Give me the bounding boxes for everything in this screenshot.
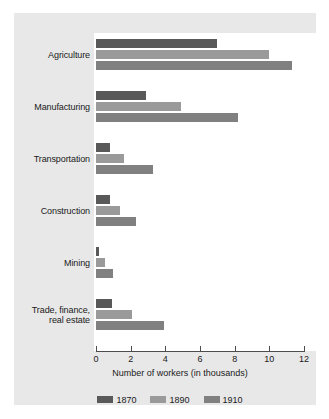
bar-1910 — [96, 165, 153, 174]
legend-label: 1870 — [116, 395, 136, 405]
category-label-line: Trade, finance, — [14, 305, 90, 315]
category-label: Transportation — [14, 154, 90, 164]
bar-1890 — [96, 206, 120, 215]
x-tick — [96, 346, 97, 352]
x-tick — [165, 346, 166, 352]
category-label: Manufacturing — [14, 102, 90, 112]
category-label: Mining — [14, 258, 90, 268]
x-tick — [269, 346, 270, 352]
legend-item-1870: 1870 — [97, 390, 136, 408]
category-label-line: Manufacturing — [14, 102, 90, 112]
legend-swatch — [97, 396, 113, 403]
x-tick-label: 8 — [225, 354, 245, 364]
legend-label: 1890 — [169, 395, 189, 405]
x-tick-label: 2 — [121, 354, 141, 364]
category-label-line: Transportation — [14, 154, 90, 164]
x-tick-label: 12 — [294, 354, 314, 364]
bar-1890 — [96, 102, 181, 111]
legend-item-1890: 1890 — [150, 390, 189, 408]
category-label: Trade, finance,real estate — [14, 305, 90, 325]
x-tick — [131, 346, 132, 352]
legend-item-1910: 1910 — [204, 390, 243, 408]
bar-1910 — [96, 61, 292, 70]
legend-items: 187018901910 — [97, 389, 256, 408]
bar-1890 — [96, 50, 269, 59]
legend-swatch — [204, 396, 220, 403]
bar-1890 — [96, 258, 105, 267]
category-label-line: Construction — [14, 206, 90, 216]
legend-label: 1910 — [223, 395, 243, 405]
category-label-line: real estate — [14, 315, 90, 325]
bar-1870 — [96, 91, 146, 100]
bar-1910 — [96, 269, 113, 278]
category-label: Agriculture — [14, 50, 90, 60]
x-axis-label-text: Number of workers (in thousands) — [112, 368, 248, 378]
x-tick-label: 6 — [190, 354, 210, 364]
chart-figure: AgricultureManufacturingTransportationCo… — [0, 0, 329, 419]
bar-1870 — [96, 39, 217, 48]
x-tick — [200, 346, 201, 352]
bar-1870 — [96, 195, 110, 204]
category-label-line: Mining — [14, 258, 90, 268]
chart-panel: AgricultureManufacturingTransportationCo… — [14, 13, 316, 405]
bar-1910 — [96, 113, 238, 122]
bar-1910 — [96, 217, 136, 226]
bar-1890 — [96, 310, 132, 319]
x-tick — [304, 346, 305, 352]
bar-1870 — [96, 299, 112, 308]
x-tick-label: 4 — [155, 354, 175, 364]
bar-1870 — [96, 247, 99, 256]
x-axis-label: Number of workers (in thousands) — [14, 368, 316, 378]
bar-1890 — [96, 154, 124, 163]
category-label: Construction — [14, 206, 90, 216]
legend-swatch — [150, 396, 166, 403]
category-label-line: Agriculture — [14, 50, 90, 60]
x-tick — [235, 346, 236, 352]
bar-1870 — [96, 143, 110, 152]
chart-legend: 187018901910 — [14, 389, 316, 408]
x-tick-label: 0 — [86, 354, 106, 364]
plot-area — [94, 33, 324, 351]
x-tick-label: 10 — [259, 354, 279, 364]
bar-1910 — [96, 321, 164, 330]
